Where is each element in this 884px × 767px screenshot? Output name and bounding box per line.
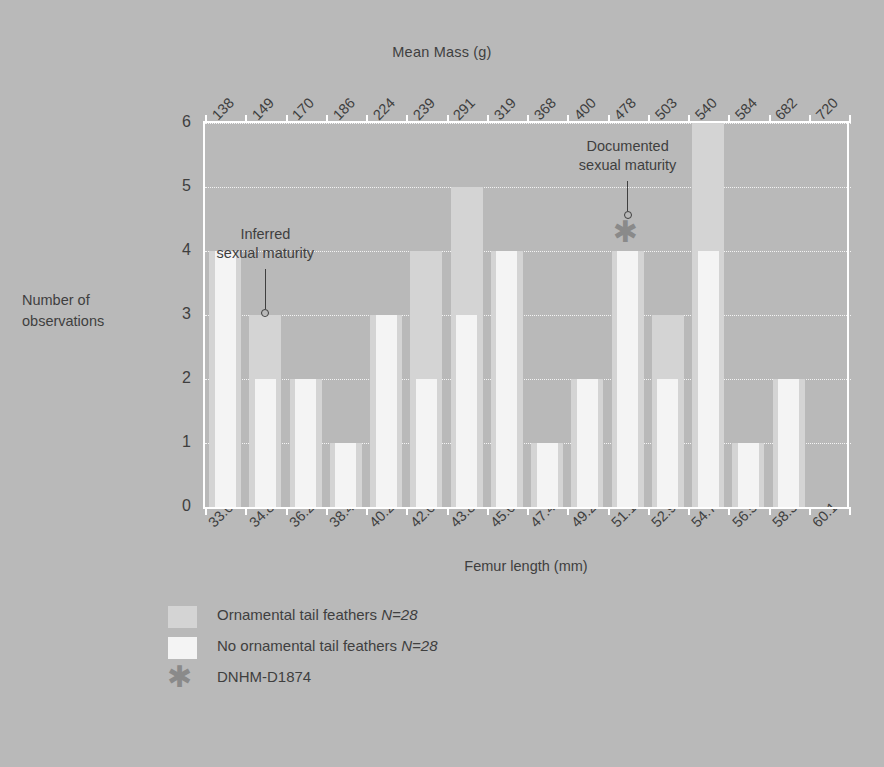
legend-label-0: Ornamental tail feathers N=28 [217, 606, 418, 623]
top-tick-14 [769, 115, 771, 123]
bars-layer [205, 123, 851, 507]
y-tick-label-2: 2 [161, 369, 191, 387]
y-tick-label-3: 3 [161, 305, 191, 323]
top-tick-label-584: 584 [732, 95, 760, 123]
top-tick-4 [366, 115, 368, 123]
bar-no-ornamental-49.2 [577, 379, 598, 507]
x-tick-2 [286, 507, 288, 515]
x-tick-15 [809, 507, 811, 515]
x-tick-4 [366, 507, 368, 515]
bar-no-ornamental-38.4 [335, 443, 356, 507]
y-tick-label-1: 1 [161, 433, 191, 451]
annotation-documented-sexual-maturity: Documented sexual maturity [528, 137, 728, 175]
bar-group-58.3 [769, 123, 809, 507]
y-axis-title-line1: Number of [22, 290, 162, 311]
asterisk-icon: ✱ [613, 217, 638, 247]
top-tick-9 [567, 115, 569, 123]
annotation-documented-stem [627, 181, 629, 211]
top-tick-label-319: 319 [490, 95, 518, 123]
x-tick-14 [769, 507, 771, 515]
bar-group-47.4 [527, 123, 567, 507]
x-tick-6 [447, 507, 449, 515]
bar-no-ornamental-42.0 [416, 379, 437, 507]
top-tick-11 [648, 115, 650, 123]
bar-no-ornamental-34.8 [255, 379, 276, 507]
x-tick-16 [849, 507, 851, 515]
bar-group-56.5 [728, 123, 768, 507]
bar-no-ornamental-43.8 [456, 315, 477, 507]
x-tick-10 [608, 507, 610, 515]
top-tick-label-170: 170 [289, 95, 317, 123]
x-tick-13 [728, 507, 730, 515]
top-tick-label-291: 291 [450, 95, 478, 123]
bar-group-42.0 [406, 123, 446, 507]
annotation-inferred-sexual-maturity: Inferred sexual maturity [165, 225, 365, 263]
bar-group-38.4 [326, 123, 366, 507]
legend-sample-size-1: N=28 [401, 637, 437, 654]
bar-no-ornamental-56.5 [738, 443, 759, 507]
x-tick-11 [648, 507, 650, 515]
top-tick-label-682: 682 [772, 95, 800, 123]
y-tick-label-0: 0 [161, 497, 191, 515]
y-tick-label-5: 5 [161, 177, 191, 195]
x-tick-9 [567, 507, 569, 515]
top-tick-label-503: 503 [651, 95, 679, 123]
top-tick-16 [849, 115, 851, 123]
top-tick-label-138: 138 [209, 95, 237, 123]
top-tick-8 [527, 115, 529, 123]
top-tick-label-400: 400 [571, 95, 599, 123]
top-tick-2 [286, 115, 288, 123]
bar-group-52.9 [648, 123, 688, 507]
top-tick-6 [447, 115, 449, 123]
bar-no-ornamental-40.2 [376, 315, 397, 507]
x-axis-title: Femur length (mm) [203, 558, 849, 574]
legend-swatch-no-ornamental [168, 637, 197, 659]
annotation-inferred-stem [265, 269, 267, 309]
y-axis-title-line2: observations [22, 311, 162, 332]
y-tick-label-6: 6 [161, 113, 191, 131]
top-tick-12 [688, 115, 690, 123]
legend-label-2: DNHM-D1874 [217, 668, 311, 685]
top-tick-label-478: 478 [611, 95, 639, 123]
bar-group-45.6 [487, 123, 527, 507]
legend-label-1: No ornamental tail feathers N=28 [217, 637, 438, 654]
top-tick-label-720: 720 [812, 95, 840, 123]
legend-asterisk-icon: ✱ [167, 660, 192, 694]
y-axis-title: Number of observations [22, 290, 162, 332]
plot-area: Inferred sexual maturity Documented sexu… [203, 121, 849, 509]
bar-no-ornamental-52.9 [657, 379, 678, 507]
top-tick-label-368: 368 [531, 95, 559, 123]
legend-swatch-ornamental [168, 606, 197, 628]
x-tick-8 [527, 507, 529, 515]
x-tick-1 [245, 507, 247, 515]
bar-no-ornamental-58.3 [778, 379, 799, 507]
top-tick-7 [487, 115, 489, 123]
top-tick-0 [205, 115, 207, 123]
top-tick-13 [728, 115, 730, 123]
top-tick-label-149: 149 [249, 95, 277, 123]
top-axis-title: Mean Mass (g) [0, 44, 884, 60]
x-tick-12 [688, 507, 690, 515]
bar-group-40.2 [366, 123, 406, 507]
bar-group-43.8 [447, 123, 487, 507]
top-tick-5 [406, 115, 408, 123]
bar-group-49.2 [567, 123, 607, 507]
top-tick-label-239: 239 [410, 95, 438, 123]
x-tick-3 [326, 507, 328, 515]
x-tick-0 [205, 507, 207, 515]
bar-no-ornamental-51.1 [617, 251, 638, 507]
top-tick-3 [326, 115, 328, 123]
bar-group-60.1 [809, 123, 849, 507]
bar-group-33.0 [205, 123, 245, 507]
x-tick-7 [487, 507, 489, 515]
bar-no-ornamental-47.4 [537, 443, 558, 507]
top-tick-1 [245, 115, 247, 123]
bar-group-54.7 [688, 123, 728, 507]
bar-no-ornamental-36.2 [295, 379, 316, 507]
bar-no-ornamental-45.6 [496, 251, 517, 507]
legend-sample-size-0: N=28 [381, 606, 417, 623]
bar-no-ornamental-33.0 [215, 251, 236, 507]
bar-group-36.2 [286, 123, 326, 507]
top-tick-label-540: 540 [692, 95, 720, 123]
bar-no-ornamental-54.7 [698, 251, 719, 507]
